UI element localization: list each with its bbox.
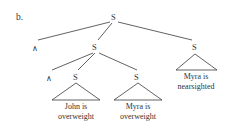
leaf-myra-near-line2: nearsighted: [178, 82, 215, 91]
syntax-tree-diagram: b. S ∧ S S Myra is nearsighted ∧ S John …: [0, 0, 232, 131]
triangle-myra: [114, 83, 162, 100]
leaf-myra-near-line1: Myra is: [184, 72, 209, 81]
edge-mid-myra: [99, 53, 137, 70]
node-right-s: S: [192, 42, 197, 52]
edge-root-left: [38, 22, 110, 40]
node-john-s: S: [73, 72, 78, 82]
node-mid-s: S: [92, 42, 97, 52]
edge-root-right: [118, 22, 192, 40]
leaf-myra-over-line2: overweight: [120, 112, 157, 121]
node-root-s: S: [111, 12, 116, 22]
conjunction-wedge-icon: ∧: [32, 44, 38, 53]
leaf-john-line2: overweight: [58, 112, 95, 121]
triangle-john: [52, 83, 100, 100]
leaf-john-line1: John is: [65, 102, 87, 111]
leaf-myra-over-line1: Myra is: [126, 102, 151, 111]
conjunction-wedge-icon-inner: ∧: [46, 74, 52, 83]
triangle-right: [176, 54, 217, 70]
node-myra-s: S: [134, 72, 139, 82]
edge-root-mid: [98, 23, 112, 40]
figure-label: b.: [16, 12, 23, 22]
